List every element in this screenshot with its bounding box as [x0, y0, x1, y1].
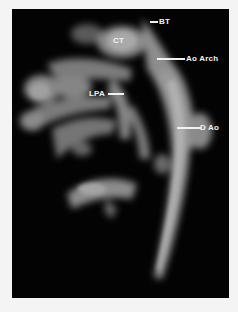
label-bt: BT	[159, 17, 170, 26]
angiography-image	[12, 9, 229, 298]
d-ao-leader-line	[177, 127, 201, 129]
label-lpa: LPA	[89, 89, 105, 98]
label-ao-arch: Ao Arch	[186, 54, 218, 63]
lpa-leader-line	[108, 93, 124, 95]
vessel-rendering	[12, 9, 229, 298]
label-d-ao: D Ao	[200, 123, 219, 132]
ao-arch-leader-line	[157, 58, 185, 60]
bt-leader-line	[150, 21, 158, 23]
label-ct: CT	[113, 36, 124, 45]
